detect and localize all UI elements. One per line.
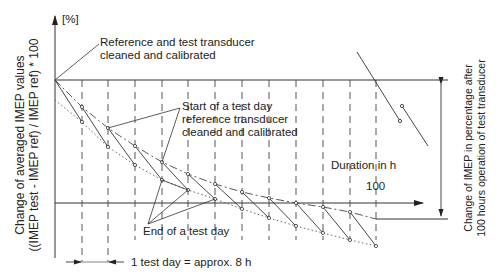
annotation-calibrated: Reference and test transducer cleaned an… (100, 36, 255, 62)
annotation-start-of-day: Start of a test day reference transducer… (182, 100, 298, 139)
y-axis-label-line1: Change of averaged IMEP values (14, 30, 27, 260)
x-tick-100: 100 (366, 180, 385, 193)
right-label-line1: Change of IMEP in percentage after (462, 48, 475, 248)
y-axis-label-line2: ((IMEP test - IMEP ref) / IMEP ref) * 10… (28, 30, 41, 260)
annotation-end-of-day: End of a test day (143, 225, 229, 238)
y-unit-label: [%] (62, 13, 79, 26)
test-day-duration-label: 1 test day = approx. 8 h (131, 256, 252, 269)
imep-drift-diagram: [%] Change of averaged IMEP values ((IME… (0, 0, 496, 280)
upper-right-drift-lines (357, 52, 428, 146)
x-axis-label: Duration in h (331, 159, 396, 172)
right-label-line2: 100 hours operation of test transducer (475, 48, 488, 248)
